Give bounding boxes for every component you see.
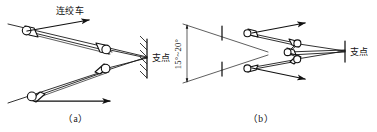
figure-root: 连绞车 支点 支点 15°~20° （a） （b） bbox=[0, 0, 377, 132]
caption-b: （b） bbox=[248, 113, 275, 124]
diagram-canvas: 连绞车 支点 支点 15°~20° （a） （b） bbox=[0, 0, 377, 132]
roller-b-upper-right bbox=[289, 39, 301, 47]
roller-b-mid bbox=[284, 48, 296, 56]
panel-b-group bbox=[183, 23, 345, 83]
rope-lines-a bbox=[8, 24, 147, 103]
roller-upper-right bbox=[96, 43, 110, 54]
winch-label: 连绞车 bbox=[56, 5, 84, 16]
arrow-winch-top bbox=[27, 20, 89, 31]
caption-a: （a） bbox=[63, 113, 89, 124]
arrow-b-top bbox=[252, 23, 305, 33]
roller-b-upper-left bbox=[244, 29, 258, 37]
panel-a-group bbox=[8, 20, 147, 103]
roller-lower-right bbox=[95, 64, 110, 74]
fulcrum-label-a: 支点 bbox=[152, 52, 171, 63]
fulcrum-label-b: 支点 bbox=[350, 46, 369, 57]
roller-b-lower-right bbox=[290, 55, 301, 64]
angle-range-label: 15°~20° bbox=[173, 39, 183, 70]
rope-lines-b bbox=[249, 33, 345, 70]
arrow-b-bottom bbox=[252, 68, 305, 79]
roller-upper-left bbox=[22, 26, 38, 37]
